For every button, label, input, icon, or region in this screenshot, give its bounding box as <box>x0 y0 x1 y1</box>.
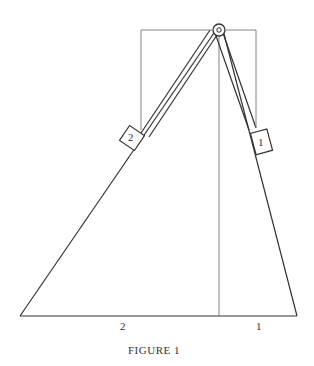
base-label-right: 1 <box>256 320 262 332</box>
figure-caption: FIGURE 1 <box>128 344 180 356</box>
block-1-label: 1 <box>258 136 264 148</box>
left-rail-outer <box>141 30 210 133</box>
base-label-left: 2 <box>120 320 126 332</box>
block-2-label: 2 <box>128 131 134 143</box>
left-rail-inner <box>149 35 217 137</box>
right-incline <box>224 34 297 316</box>
left-incline <box>20 33 214 316</box>
right-rail-inner <box>223 33 256 128</box>
right-rail-outer <box>215 33 249 130</box>
double-incline-pulley-diagram <box>0 0 314 366</box>
pulley-axle <box>217 28 221 32</box>
